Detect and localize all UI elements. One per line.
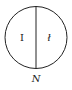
- right-half-label: ł: [47, 32, 51, 43]
- split-circle-diagram: I ł N: [0, 0, 72, 90]
- left-half-label: I: [20, 32, 24, 43]
- diagram-caption: N: [31, 73, 42, 84]
